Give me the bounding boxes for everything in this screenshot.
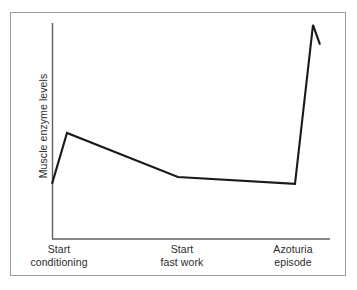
y-axis-label: Muscle enzyme levels: [35, 61, 51, 191]
x-tick-label-line2: episode: [248, 256, 338, 269]
enzyme-level-series-line: [52, 25, 320, 184]
x-tick-label-line1: Start: [14, 243, 104, 256]
x-tick-label-start-conditioning: Start conditioning: [14, 243, 104, 268]
x-tick-label-line2: fast work: [137, 256, 227, 269]
x-tick-label-line1: Start: [137, 243, 227, 256]
x-tick-label-start-fast-work: Start fast work: [137, 243, 227, 268]
x-tick-label-azoturia-episode: Azoturia episode: [248, 243, 338, 268]
x-tick-label-line2: conditioning: [14, 256, 104, 269]
x-tick-label-line1: Azoturia: [248, 243, 338, 256]
chart-figure: Muscle enzyme levels Start conditioning …: [0, 0, 357, 290]
